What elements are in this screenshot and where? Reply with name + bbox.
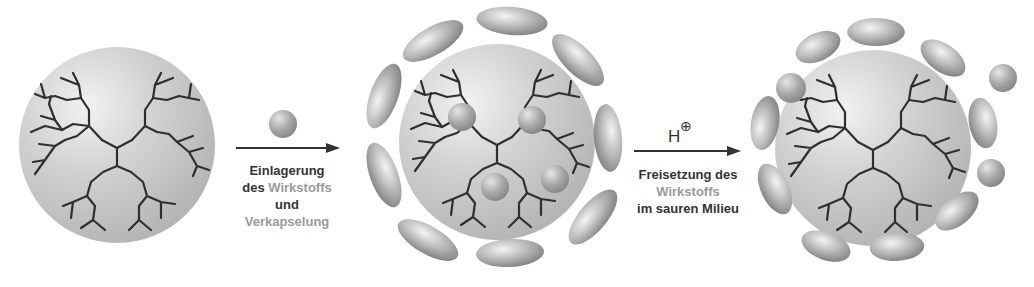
step1-line4: Verkapselung xyxy=(222,213,352,230)
released-drug-molecule xyxy=(989,64,1017,92)
empty-dendrimer xyxy=(19,47,215,243)
drug-molecule xyxy=(481,173,509,201)
step2-line1: Freisetzung des xyxy=(620,166,756,183)
step1-line3: und xyxy=(222,196,352,213)
positive-charge-icon: ⊕ xyxy=(680,118,692,134)
proton-label: H⊕ xyxy=(668,122,692,147)
step1-line2: des Wirkstoffs xyxy=(222,179,352,196)
diagram-canvas xyxy=(0,0,1034,287)
release-dendrimer xyxy=(746,18,1017,268)
drug-molecule xyxy=(541,165,569,193)
step1-line1: Einlagerung xyxy=(222,162,352,179)
drug-molecule xyxy=(448,103,476,131)
drug-molecule-icon xyxy=(269,110,297,138)
step2-arrow xyxy=(634,146,741,156)
step1-label: Einlagerung des Wirkstoffs und Verkapsel… xyxy=(222,162,352,230)
drug-molecule xyxy=(518,106,546,134)
step2-line3: im sauren Milieu xyxy=(620,200,756,217)
step2-line2: Wirkstoffs xyxy=(620,183,756,200)
step1-arrow xyxy=(236,110,340,153)
released-drug-molecule xyxy=(977,159,1005,187)
loaded-encapsulated-dendrimer xyxy=(359,4,625,269)
step2-label: Freisetzung des Wirkstoffs im sauren Mil… xyxy=(620,166,756,217)
released-drug-molecule xyxy=(776,73,806,103)
